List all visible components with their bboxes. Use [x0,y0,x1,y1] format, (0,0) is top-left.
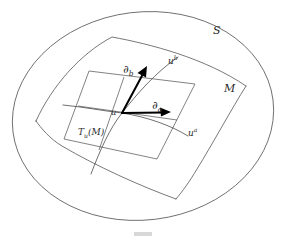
label-basis-vector-db: ∂b [123,64,133,78]
label-ub-superscript: b [174,54,178,61]
caption-fragment [134,232,152,236]
figure-root: S M u ua ub ∂a ∂b Tu(M) [0,0,286,239]
label-db-subscript: b [129,69,134,78]
label-coordinate-curve-ub: ub [168,55,178,66]
tangent-plane-parallelogram [64,71,195,159]
label-tangent-space: Tu(M) [78,128,104,139]
manifold-sheet [36,37,246,199]
label-ua-superscript: a [194,126,198,133]
label-ambient-space-S: S [213,25,221,36]
label-da-subscript: a [158,105,162,114]
label-manifold-M: M [224,83,235,94]
diagram-canvas [0,0,286,239]
tangent-vector-da [122,108,171,117]
label-base-point-u: u [111,109,116,117]
label-coordinate-curve-ua: ua [188,127,197,138]
label-tum-argument: (M) [88,127,104,137]
label-basis-vector-da: ∂a [152,100,162,114]
